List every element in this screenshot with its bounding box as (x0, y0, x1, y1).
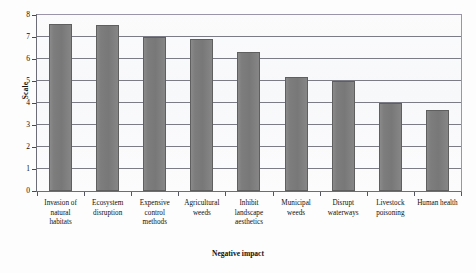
bar-slot (84, 15, 131, 191)
y-axis-tick (32, 81, 36, 82)
bar-slot (273, 15, 320, 191)
bar-slot (225, 15, 272, 191)
x-axis-tick-label: Invasion ofnaturalhabitats (37, 199, 84, 228)
bar-slot (367, 15, 414, 191)
bar-slot (320, 15, 367, 191)
y-axis-tick-label: 0 (12, 187, 30, 195)
x-axis-tick (37, 192, 38, 196)
x-axis-title: Negative impact (0, 249, 476, 258)
x-axis-tick (320, 192, 321, 196)
x-axis-tick-label: Agriculturalweeds (178, 199, 225, 218)
bar (190, 39, 213, 191)
bar-slot (178, 15, 225, 191)
y-axis-tick-label: 4 (12, 99, 30, 107)
y-axis-tick (32, 37, 36, 38)
bar (143, 37, 166, 191)
y-axis-tick-label: 7 (12, 33, 30, 41)
bar-slot (37, 15, 84, 191)
y-axis-tick-label: 5 (12, 77, 30, 85)
bar-chart: Scale 012345678 Invasion ofnaturalhabita… (0, 0, 476, 273)
x-axis-tick (367, 192, 368, 196)
bar (379, 103, 402, 191)
bar (332, 81, 355, 191)
x-axis-tick-label: Ecosystemdisruption (84, 199, 131, 218)
y-axis-tick-label: 2 (12, 143, 30, 151)
bar (285, 77, 308, 191)
x-axis-tick (178, 192, 179, 196)
y-axis-tick (32, 15, 36, 16)
x-axis-tick-label: Inhibitlandscapeaesthetics (225, 199, 272, 228)
x-axis-tick (131, 192, 132, 196)
y-axis-tick (32, 103, 36, 104)
y-axis-tick (32, 169, 36, 170)
bar (96, 25, 119, 191)
y-axis-tick (32, 125, 36, 126)
x-axis-tick (225, 192, 226, 196)
y-axis-tick-label: 3 (12, 121, 30, 129)
x-axis-tick (414, 192, 415, 196)
y-axis-tick (32, 191, 36, 192)
x-axis-tick-label: Expensivecontrolmethods (131, 199, 178, 228)
x-axis-tick-label: Disruptwaterways (320, 199, 367, 218)
x-axis-tick (461, 192, 462, 196)
x-axis-tick-label: Livestockpoisoning (367, 199, 414, 218)
x-axis-tick-label: Municipalweeds (273, 199, 320, 218)
x-axis-tick-labels: Invasion ofnaturalhabitatsEcosystemdisru… (37, 199, 461, 245)
y-axis-tick-label: 1 (12, 165, 30, 173)
x-axis-tick (273, 192, 274, 196)
bar-slot (131, 15, 178, 191)
bar-series (37, 15, 461, 191)
bar (237, 52, 260, 191)
bar-slot (414, 15, 461, 191)
bar (49, 24, 72, 191)
bar (426, 110, 449, 191)
y-axis-tick (32, 59, 36, 60)
y-axis-tick-label: 6 (12, 55, 30, 63)
x-axis-tick-label: Human health (414, 199, 461, 209)
y-axis-tick (32, 147, 36, 148)
x-axis-tick (84, 192, 85, 196)
y-axis-tick-label: 8 (12, 11, 30, 19)
